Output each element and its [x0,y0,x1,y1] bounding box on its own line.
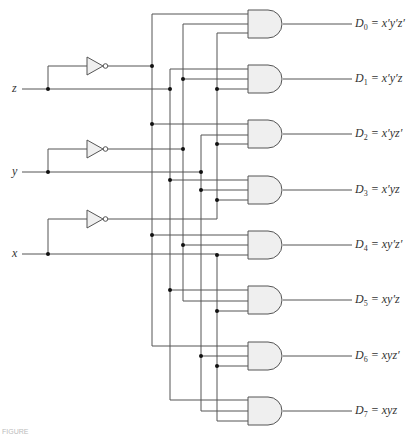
output-label-d3: D3 = x′yz [355,182,400,198]
and-gate-d6-icon [248,342,282,370]
input-label-z: z [12,81,17,96]
input-label-x: x [12,246,17,261]
figure-caption: FIGURE [2,428,28,435]
and-gate-d3-icon [248,176,282,204]
x-inverter-icon [87,210,103,228]
and-gate-d2-icon [248,120,282,148]
output-label-d4: D4 = xy′z′ [355,237,402,253]
and-gate-d7-icon [248,397,282,425]
y-complement-rail [183,24,248,301]
x-branch-wire [48,219,87,254]
output-label-d0: D0 = x′y′z′ [355,16,405,32]
junction-dots [46,64,219,368]
and-gate-d1-icon [248,65,282,93]
output-label-d7: D7 = xyz [355,403,397,419]
output-label-d1: D1 = x′y′z [355,71,402,87]
and-gate-d0-icon [248,10,282,38]
z-branch-wire [48,66,87,89]
y-rail [201,135,248,411]
output-label-d6: D6 = xyz′ [355,348,400,364]
and-gate-d5-icon [248,286,282,314]
y-inverter-icon [87,140,103,158]
y-branch-wire [48,149,87,172]
and-gate-d4-icon [248,231,282,259]
input-label-y: y [12,164,17,179]
z-inverter-icon [87,57,103,75]
output-label-d5: D5 = xy′z [355,292,400,308]
output-label-d2: D2 = x′yz′ [355,126,402,142]
decoder-circuit [0,0,416,435]
